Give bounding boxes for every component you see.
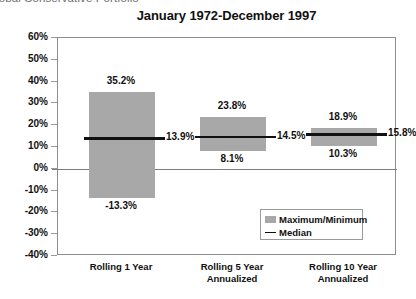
min-value-label: 10.3%	[298, 148, 388, 159]
y-axis-tick-label: 40%	[2, 75, 48, 86]
range-bar	[200, 117, 266, 151]
legend-label: Median	[279, 227, 312, 238]
x-axis-category-line: Rolling 5 Year	[177, 261, 287, 273]
legend-item: Median	[265, 226, 362, 238]
median-value-label: 13.9%	[166, 131, 194, 142]
x-axis-category-line: Annualized	[177, 273, 287, 285]
x-axis-category-line: Rolling 10 Year	[288, 261, 398, 273]
x-axis-category-line: Rolling 1 Year	[66, 261, 176, 273]
y-axis-tick-label: 20%	[2, 118, 48, 129]
y-axis-tick-label: 60%	[2, 31, 48, 42]
x-axis-category-label: Rolling 5 YearAnnualized	[177, 261, 287, 284]
x-axis-category-line: Annualized	[288, 273, 398, 285]
median-line	[306, 133, 387, 135]
x-axis-category-label: Rolling 10 YearAnnualized	[288, 261, 398, 284]
chart-legend: Maximum/MinimumMedian	[260, 209, 363, 240]
range-bar	[89, 92, 155, 198]
median-value-label: 14.5%	[277, 130, 305, 141]
y-axis-tick-label: -10%	[2, 184, 48, 195]
max-value-label: 23.8%	[187, 100, 277, 111]
y-axis-tick-label: -40%	[2, 249, 48, 260]
median-line	[195, 136, 276, 138]
legend-label: Maximum/Minimum	[279, 214, 367, 225]
median-value-label: 15.8%	[388, 127, 416, 138]
max-value-label: 35.2%	[76, 75, 166, 86]
y-axis-tick-label: -20%	[2, 205, 48, 216]
legend-swatch-icon	[265, 216, 276, 223]
chart-title: January 1972-December 1997	[57, 8, 396, 23]
max-value-label: 18.9%	[298, 111, 388, 122]
y-axis-tick-label: 50%	[2, 53, 48, 64]
legend-dash-icon	[265, 232, 276, 233]
legend-item: Maximum/Minimum	[265, 213, 362, 225]
min-value-label: -13.3%	[76, 200, 166, 211]
x-axis-category-label: Rolling 1 Year	[66, 261, 176, 273]
y-axis-tick-label: 30%	[2, 96, 48, 107]
median-line	[84, 137, 165, 139]
clipped-header-text: lobal Conservative Portfolio	[0, 0, 139, 4]
y-axis-tick	[51, 255, 57, 256]
y-axis-tick-label: 0%	[2, 162, 48, 173]
y-axis-tick-label: 10%	[2, 140, 48, 151]
range-bar	[311, 128, 377, 147]
min-value-label: 8.1%	[187, 153, 277, 164]
y-axis-tick-label: -30%	[2, 227, 48, 238]
